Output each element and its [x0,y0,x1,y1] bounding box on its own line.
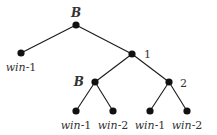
label-leaf-left: win-1 [6,61,37,74]
node-root [72,21,79,28]
tree-edges [21,25,187,111]
node-leaf-b2 [109,107,116,114]
label-node-1: 1 [144,48,151,61]
edge-root-n1 [76,25,132,54]
game-tree-diagram: B 1 B 2 win-1 win-1 win-2 win-1 win-2 [0,0,217,135]
node-leaf-b1 [72,107,79,114]
node-2 [165,78,172,85]
label-leaf-22: win-2 [172,119,203,132]
edge-n2-leaf1 [150,82,169,111]
tree-labels: B 1 B 2 win-1 win-1 win-2 win-1 win-2 [6,6,203,132]
node-leaf-left [17,49,24,56]
tree-nodes [17,21,190,114]
label-leaf-b2: win-2 [98,119,129,132]
edge-nB-leaf2 [95,82,113,111]
label-leaf-21: win-1 [135,119,166,132]
label-leaf-b1: win-1 [61,119,92,132]
label-root: B [70,6,81,20]
edge-n1-nB [95,54,132,82]
node-leaf-22 [183,107,190,114]
label-node-2: 2 [180,77,187,90]
node-leaf-21 [146,107,153,114]
node-1 [128,50,135,57]
node-B [91,78,98,85]
label-node-B: B [73,75,84,89]
edge-root-leftleaf [21,25,76,53]
